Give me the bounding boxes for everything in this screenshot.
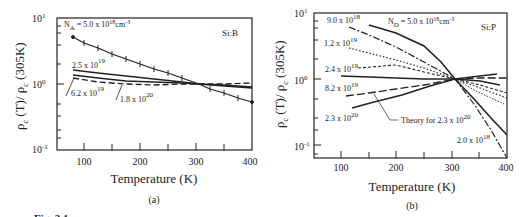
panel-b-label-2.4e19: 2.4 x 1019 bbox=[325, 62, 359, 74]
panel-b-ytick-01: 10-1 bbox=[294, 140, 310, 152]
panel-b-label-theory: Theory for 2.3 x 1020 bbox=[401, 113, 471, 125]
panel-b-label-nd: ND = 5.0 x 1018cm-3 bbox=[388, 16, 454, 29]
panel-a-label-2.5e19: 2.5 x 1019 bbox=[72, 57, 106, 70]
panel-b-x-ticks bbox=[341, 151, 479, 158]
panel-a-label-6.2e19: 6.2 x 1019 bbox=[71, 85, 105, 98]
panel-b-ytick-10: 101 bbox=[294, 7, 308, 19]
panel-b-xtick-300: 300 bbox=[445, 162, 460, 173]
panel-b-system-label: Si:P bbox=[481, 22, 496, 32]
panel-b-xtick-400: 400 bbox=[499, 162, 514, 173]
panel-b-panel-label: (b) bbox=[406, 200, 418, 212]
panel-a-ylabel: ρc (T)/ ρc (305K) bbox=[12, 42, 30, 130]
panel-a-chart: 101 100 10-1 100 200 300 400 Temperature… bbox=[12, 12, 258, 206]
panel-b-label-9e18: 9.0 x 1018 bbox=[327, 13, 361, 25]
panel-b-xtick-200: 200 bbox=[389, 162, 404, 173]
panel-a-panel-label: (a) bbox=[148, 194, 159, 206]
panel-b-chart: 101 100 10-1 100 200 300 400 Temperature… bbox=[272, 7, 514, 212]
panel-a-curve-1.8e20 bbox=[73, 78, 252, 85]
panel-a-label-na: NA = 5.0 x 1018cm-3 bbox=[64, 19, 130, 32]
panel-a-xtick-100: 100 bbox=[77, 156, 92, 167]
panel-b-label-1.2e19: 1.2 x 1019 bbox=[324, 36, 358, 48]
panel-a-xtick-300: 300 bbox=[189, 156, 204, 167]
panel-b-label-2.3e20: 2.3 x 1020 bbox=[325, 111, 359, 123]
panel-b-leader-theory bbox=[374, 94, 398, 120]
panel-b-label-8.2e19: 8.2 x 1019 bbox=[325, 81, 359, 93]
figure: 101 100 10-1 100 200 300 400 Temperature… bbox=[0, 0, 523, 217]
figure-caption-fragment: Fig. 3.1 bbox=[34, 212, 69, 217]
panel-b-xlabel: Temperature (K) bbox=[369, 179, 456, 194]
panel-b-label-2e18: 2.0 x 1018 bbox=[457, 133, 491, 145]
panel-a-ytick-1: 100 bbox=[32, 78, 46, 90]
panel-b-y-ticks bbox=[314, 21, 321, 154]
panel-b-ytick-1: 100 bbox=[294, 74, 308, 86]
panel-a-xtick-400: 400 bbox=[243, 156, 258, 167]
panel-a-y-ticks bbox=[57, 26, 64, 138]
panel-a-xlabel: Temperature (K) bbox=[111, 171, 198, 186]
panel-a-x-ticks bbox=[84, 143, 224, 150]
panel-a-ytick-10: 101 bbox=[32, 12, 46, 24]
panel-b-xtick-100: 100 bbox=[334, 162, 349, 173]
panel-b-curve-theory bbox=[455, 79, 504, 104]
panel-b-ylabel: ρc (T)/ ρc (305K) bbox=[272, 40, 290, 128]
panel-a-label-1.8e20: 1.8 x 1020 bbox=[120, 91, 154, 104]
panel-a-system-label: Si:B bbox=[222, 28, 238, 38]
panel-a-xtick-200: 200 bbox=[133, 156, 148, 167]
panel-a-ytick-01: 10-1 bbox=[32, 143, 48, 155]
